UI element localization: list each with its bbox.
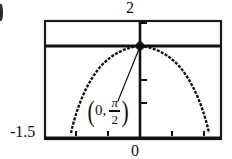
fraction-denominator: 2 [111, 112, 120, 126]
point-coordinate-label: ( 0, π 2 ) [86, 96, 130, 126]
y-axis-ticks [141, 23, 147, 103]
fraction-pi-over-2: π 2 [108, 96, 121, 126]
plot-frame [45, 21, 221, 139]
plot-canvas [0, 0, 232, 159]
x-coordinate-value: 0, [95, 103, 108, 118]
marked-point [136, 42, 145, 51]
figure-container: 2 0 -1.5 ( 0, [0, 0, 232, 159]
open-paren: ( [87, 99, 94, 124]
close-paren: ) [122, 99, 129, 124]
fraction-numerator: π [110, 96, 119, 110]
